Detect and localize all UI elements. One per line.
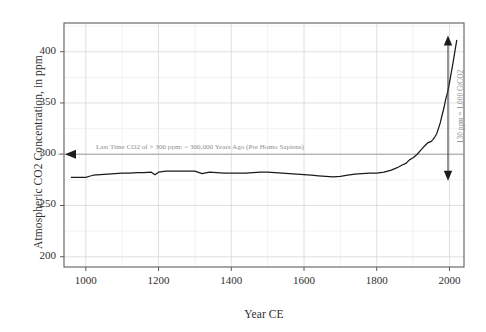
y-tick-label: 250 xyxy=(22,197,56,209)
y-tick-label: 400 xyxy=(22,44,56,56)
y-tick-label: 350 xyxy=(22,95,56,107)
co2-concentration-chart: Atmospheric CO2 Concentration, in ppm Ye… xyxy=(0,0,486,332)
x-tick-label: 1000 xyxy=(63,274,109,286)
x-tick-label: 1600 xyxy=(281,274,327,286)
x-tick-label: 1200 xyxy=(136,274,182,286)
threshold-annotation-label: Last Time CO2 of > 300 ppm: ~ 300,000 Ye… xyxy=(96,143,304,151)
x-tick-label: 1800 xyxy=(354,274,400,286)
y-tick-label: 300 xyxy=(22,146,56,158)
y-tick-label: 200 xyxy=(22,249,56,261)
x-tick-label: 2000 xyxy=(426,274,472,286)
range-annotation-label: 130 ppm = 1,000 GtCO2 xyxy=(456,61,465,153)
x-tick-label: 1400 xyxy=(208,274,254,286)
x-axis-title: Year CE xyxy=(64,308,464,320)
